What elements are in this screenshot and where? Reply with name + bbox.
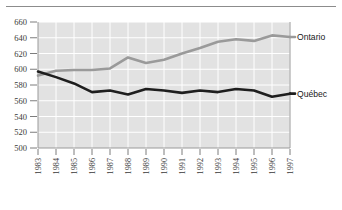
y-tick-label: 660 bbox=[14, 17, 27, 27]
y-tick-label: 560 bbox=[14, 96, 27, 106]
x-tick-label: 1996 bbox=[268, 158, 277, 174]
x-tick-label: 1983 bbox=[34, 158, 43, 174]
plot-container: 660640620600580560540520500 198319841985… bbox=[0, 0, 342, 210]
y-axis: 660640620600580560540520500 bbox=[14, 17, 37, 153]
x-tick-label: 1993 bbox=[214, 158, 223, 174]
x-tick-label: 1992 bbox=[196, 158, 205, 174]
chart-figure: 660640620600580560540520500 198319841985… bbox=[0, 0, 342, 210]
series-label-quebec: Québec bbox=[297, 89, 328, 99]
x-tick-label: 1995 bbox=[250, 158, 259, 174]
line-chart: 660640620600580560540520500 198319841985… bbox=[0, 0, 342, 210]
x-tick-label: 1994 bbox=[232, 158, 241, 174]
x-tick-label: 1991 bbox=[178, 158, 187, 174]
x-tick-label: 1990 bbox=[160, 158, 169, 174]
y-tick-label: 600 bbox=[14, 64, 27, 74]
series-label-ontario: Ontario bbox=[297, 32, 325, 42]
x-axis: 1983198419851986198719881989199019911992… bbox=[34, 149, 295, 174]
y-tick-label: 520 bbox=[14, 127, 27, 137]
y-tick-label: 640 bbox=[14, 33, 27, 43]
y-tick-label: 500 bbox=[14, 143, 27, 153]
x-tick-label: 1985 bbox=[70, 158, 79, 174]
y-tick-label: 580 bbox=[14, 80, 27, 90]
x-tick-label: 1987 bbox=[106, 158, 115, 174]
x-tick-label: 1986 bbox=[88, 158, 97, 174]
x-tick-label: 1989 bbox=[142, 158, 151, 174]
y-tick-label: 620 bbox=[14, 49, 27, 59]
x-tick-label: 1997 bbox=[286, 158, 295, 174]
x-tick-label: 1988 bbox=[124, 158, 133, 174]
x-tick-label: 1984 bbox=[52, 158, 61, 174]
y-tick-label: 540 bbox=[14, 112, 27, 122]
